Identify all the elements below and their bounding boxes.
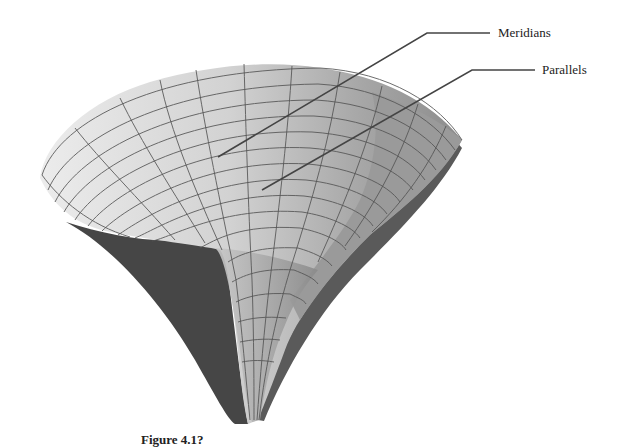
figure-caption: Figure 4.1?	[141, 433, 204, 446]
meridians-label: Meridians	[498, 26, 551, 39]
figure-number: Figure 4.1?	[141, 432, 204, 447]
parallels-label: Parallels	[542, 63, 587, 76]
